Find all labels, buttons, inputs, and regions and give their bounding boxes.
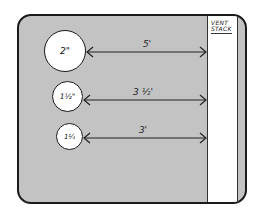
- diagram-frame: VENT STACK 2" 1½" 1¼ 5' 3 ½' 3': [17, 14, 247, 204]
- distance-label-2in: 5': [143, 39, 151, 49]
- distance-arrows: [19, 16, 247, 204]
- distance-label-1-25in: 3': [139, 125, 147, 135]
- distance-label-1-5in: 3 ½': [133, 87, 153, 97]
